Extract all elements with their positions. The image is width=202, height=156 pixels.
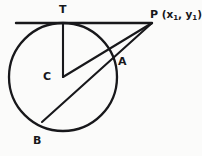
- point-label-p-coords: (x1, y1): [158, 8, 202, 20]
- geometry-canvas: [0, 0, 202, 156]
- segment-cp-line: [63, 23, 152, 77]
- coord-open-paren: (x: [162, 8, 173, 20]
- point-label-a: A: [118, 56, 127, 67]
- geometry-figure: T C A B P (x1, y1): [0, 0, 202, 156]
- secant-bp-line: [42, 23, 152, 122]
- point-label-c: C: [43, 71, 51, 82]
- coord-separator: , y: [178, 8, 192, 20]
- point-label-t: T: [59, 4, 67, 15]
- coord-close-paren: ): [197, 8, 202, 20]
- point-label-b: B: [33, 135, 42, 146]
- point-label-p: P (x1, y1): [150, 5, 202, 22]
